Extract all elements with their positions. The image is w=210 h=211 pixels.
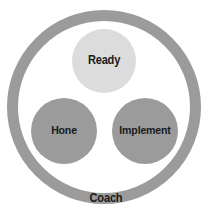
circle-hone[interactable] — [31, 98, 97, 164]
venn-diagram-graphic — [0, 0, 210, 211]
circle-ready[interactable] — [72, 29, 136, 93]
coach-model-diagram: Ready Hone Implement Coach — [0, 0, 210, 211]
circle-implement[interactable] — [112, 98, 178, 164]
